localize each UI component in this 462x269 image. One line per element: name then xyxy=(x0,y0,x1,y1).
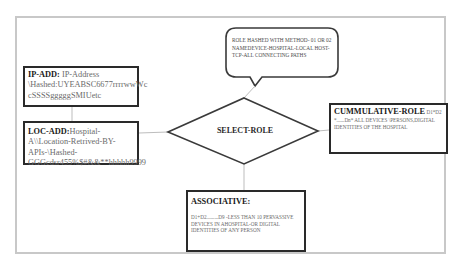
ip-add-label: IP-ADD xyxy=(28,70,57,79)
loc-add-label: LOC-ADD xyxy=(28,127,67,136)
cumulative-role-box: CUMMULATIVE-ROLE D1*D2 *......Dn* ALL DE… xyxy=(329,103,448,154)
ip-add-box: IP-ADD: IP-Address \Hashed:UYEABSC6677rr… xyxy=(23,66,139,107)
associative-box: ASSOCIATIVE: D1+D2.........D9 -LESS THAN… xyxy=(186,190,306,252)
loc-diamond-connector xyxy=(139,132,168,133)
callout-connector xyxy=(244,86,255,98)
loc-add-box: LOC-ADD:Hospital-A\\Location-Retrived-BY… xyxy=(23,121,139,165)
associative-value: D1+D2.........D9 -LESS THAN 10 PERVASSIV… xyxy=(191,214,293,233)
diamond-cumulative-connector xyxy=(318,130,329,131)
callout-text: ROLE HASHED WITH METHOD- 01 OR 02 NAMEDE… xyxy=(232,37,336,60)
select-role-label: SELECT-ROLE xyxy=(205,126,285,135)
cumulative-role-label: CUMMULATIVE-ROLE xyxy=(334,107,425,116)
associative-label: ASSOCIATIVE: xyxy=(191,197,301,207)
